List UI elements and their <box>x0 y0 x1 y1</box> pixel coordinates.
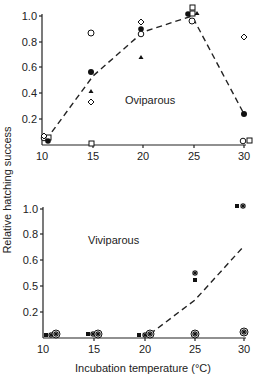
top-y-ticks: 1.0 0.8 0.6 0.4 0.2 <box>22 10 42 125</box>
svg-text:1.0: 1.0 <box>23 203 38 215</box>
svg-text:1.0: 1.0 <box>22 10 37 22</box>
oviparous-label: Oviparous <box>125 94 176 106</box>
svg-text:0.8: 0.8 <box>22 36 37 48</box>
viviparous-label: Viviparous <box>88 234 140 246</box>
hatching-success-figure: Relative hatching success 1.0 0.8 0.6 0.… <box>0 0 255 379</box>
viviparous-markers <box>44 203 248 338</box>
top-x-ticks: 10 15 20 25 30 <box>36 145 250 162</box>
bottom-y-ticks: 1.0 0.8 0.6 0.5 0.2 <box>23 203 43 318</box>
viviparous-mean-line <box>150 246 244 334</box>
svg-text:0.6: 0.6 <box>23 254 38 266</box>
y-axis-label: Relative hatching success <box>1 126 13 254</box>
svg-text:10: 10 <box>37 343 49 355</box>
svg-text:0.8: 0.8 <box>23 228 38 240</box>
svg-text:30: 30 <box>238 150 250 162</box>
svg-text:25: 25 <box>189 343 201 355</box>
oviparous-mean-line <box>46 16 244 140</box>
svg-text:20: 20 <box>137 150 149 162</box>
svg-text:10: 10 <box>36 150 48 162</box>
svg-text:0.2: 0.2 <box>23 306 38 318</box>
svg-text:25: 25 <box>188 150 200 162</box>
oviparous-panel: 1.0 0.8 0.6 0.4 0.2 10 15 20 25 30 Ovipa… <box>22 5 252 162</box>
svg-text:20: 20 <box>139 343 151 355</box>
svg-text:0.6: 0.6 <box>22 61 37 73</box>
x-axis-label: Incubation temperature (°C) <box>75 362 211 374</box>
svg-text:15: 15 <box>88 343 100 355</box>
svg-text:15: 15 <box>87 150 99 162</box>
viviparous-panel: 1.0 0.8 0.6 0.5 0.2 10 15 20 25 30 Vivip… <box>23 203 250 355</box>
svg-text:0.2: 0.2 <box>22 113 37 125</box>
svg-text:0.5: 0.5 <box>23 280 38 292</box>
bottom-x-ticks: 10 15 20 25 30 <box>37 338 250 355</box>
svg-text:0.4: 0.4 <box>22 87 37 99</box>
oviparous-markers <box>41 5 252 146</box>
svg-text:30: 30 <box>238 343 250 355</box>
